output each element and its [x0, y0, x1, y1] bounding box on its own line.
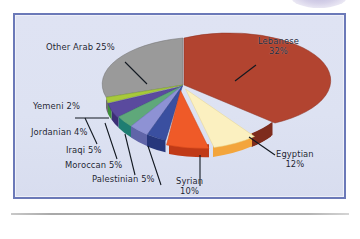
pie-label-iraqi: Iraqi 5%: [66, 145, 101, 155]
pie-label-lebanese: Lebanese 32%: [258, 36, 299, 57]
bottom-rule: [11, 213, 349, 215]
pie-label-moroccan: Moroccan 5%: [65, 160, 122, 170]
leader-moroccan: [125, 134, 135, 175]
pie-label-egyptian: Egyptian 12%: [276, 149, 314, 170]
pie-label-other-arab: Other Arab 25%: [46, 42, 115, 52]
pie-label-yemeni: Yemeni 2%: [33, 101, 80, 111]
pie-label-syrian: Syrian 10%: [176, 176, 203, 197]
leader-iraqi: [105, 123, 117, 159]
pie-side-lebanese-3: [252, 122, 273, 147]
scan-artifact: [291, 0, 347, 8]
pie-label-palestinian: Palestinian 5%: [92, 174, 155, 184]
pie-label-jordanian: Jordanian 4%: [31, 127, 88, 137]
